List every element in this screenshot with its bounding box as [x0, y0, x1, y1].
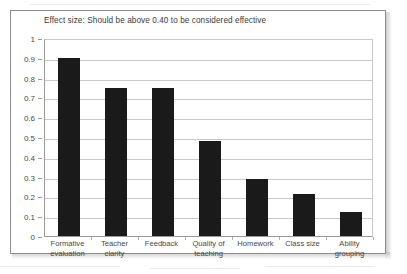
x-axis-tick-label: Formative evaluation [44, 239, 91, 258]
chart-title: Effect size: Should be above 0.40 to be … [44, 16, 266, 25]
y-axis-tick [38, 39, 42, 40]
y-axis-tick-label: 0.1 [24, 213, 35, 222]
x-axis-tick-label: Quality of teaching [185, 239, 232, 258]
scan-artifact-line [150, 268, 240, 269]
y-axis-tick-labels: 10.90.80.70.60.50.40.30.20.10 [11, 39, 42, 237]
y-axis-tick [38, 118, 42, 119]
bar [199, 141, 221, 236]
y-axis-tick [38, 197, 42, 198]
x-axis-tick-label: Ability grouping [326, 239, 373, 258]
x-axis-tick-labels: Formative evaluationTeacher clarityFeedb… [44, 239, 373, 267]
chart-frame: Effect size: Should be above 0.40 to be … [10, 10, 386, 254]
y-axis-tick-label: 1 [31, 35, 35, 44]
y-axis-tick [38, 158, 42, 159]
y-axis-tick-label: 0.4 [24, 153, 35, 162]
y-axis-tick [38, 138, 42, 139]
y-axis-tick-label: 0.3 [24, 173, 35, 182]
figure-shadow-right [385, 12, 392, 259]
y-axis-tick-label: 0 [31, 233, 35, 242]
bar [58, 58, 80, 236]
y-axis-tick [38, 178, 42, 179]
y-axis-tick-label: 0.7 [24, 94, 35, 103]
y-axis-tick-label: 0.5 [24, 134, 35, 143]
bar [105, 88, 127, 237]
bar [293, 194, 315, 236]
x-axis-tick [373, 237, 374, 240]
bar [340, 212, 362, 236]
x-axis-tick-label: Teacher clarity [91, 239, 138, 258]
x-axis-tick-label: Homework [232, 239, 279, 249]
scan-artifact-line [0, 266, 120, 267]
x-axis-tick-label: Feedback [138, 239, 185, 249]
y-axis-tick-label: 0.2 [24, 193, 35, 202]
bar [246, 179, 268, 236]
y-axis-tick-label: 0.9 [24, 54, 35, 63]
x-axis-tick-label: Class size [279, 239, 326, 249]
y-axis-tick [38, 98, 42, 99]
plot-area [44, 39, 373, 237]
chart-figure: Effect size: Should be above 0.40 to be … [0, 0, 407, 274]
y-axis-tick [38, 59, 42, 60]
y-axis-tick [38, 79, 42, 80]
y-axis-tick [38, 217, 42, 218]
y-axis-tick [38, 237, 42, 238]
y-axis-tick-label: 0.6 [24, 114, 35, 123]
y-axis-tick-label: 0.8 [24, 74, 35, 83]
scan-artifact-line [265, 266, 375, 267]
bar-series [45, 40, 372, 236]
bar [152, 88, 174, 237]
scan-artifact-line [30, 4, 370, 5]
